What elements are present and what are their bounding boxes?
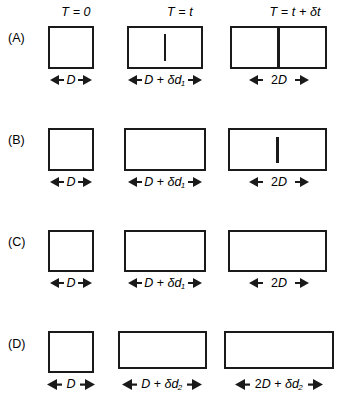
arrow-right-icon (78, 74, 92, 86)
arrow-right-icon (188, 74, 202, 86)
cell-box-d-t (118, 331, 207, 369)
cell-box-c-t0 (48, 230, 94, 272)
dimension-d-t0: D (36, 376, 106, 392)
cell-division-figure: T = 0 T = t T = t + δt (A) D D + δd1 (0, 0, 357, 415)
figure-caption-clipped (4, 403, 355, 415)
column-header-t0-text: T = 0 (61, 5, 90, 19)
arrow-left-icon (249, 277, 263, 289)
row-label-b: (B) (8, 134, 25, 147)
arrow-right-icon (295, 277, 309, 289)
row-label-a-text: (A) (8, 31, 25, 45)
arrow-right-icon (188, 176, 202, 188)
cell-box-d-tdt (224, 331, 334, 369)
cell-box-c-t (124, 230, 206, 272)
dimension-c-tdt-label: 2D (263, 276, 295, 289)
septum-partial-a-t (164, 34, 166, 61)
row-label-c: (C) (8, 236, 25, 249)
row-label-b-text: (B) (8, 133, 25, 147)
row-label-d: (D) (8, 338, 25, 351)
dimension-b-t: D + δd1 (117, 174, 213, 190)
dimension-d-tdt-label: 2D + δd2 (250, 377, 309, 390)
dimension-a-tdt: 2D (228, 72, 330, 88)
arrow-left-icon (50, 277, 64, 289)
arrow-left-icon (128, 74, 142, 86)
arrow-right-icon (78, 277, 92, 289)
arrow-right-icon (188, 277, 202, 289)
dimension-b-t-label: D + δd1 (142, 175, 188, 188)
column-header-t-plus-dt-text: T = t + δt (269, 5, 320, 19)
dimension-d-t-label: D + δd2 (137, 377, 187, 390)
column-header-t-text: T = t (167, 5, 193, 19)
row-label-d-text: (D) (8, 337, 25, 351)
arrow-left-icon (122, 378, 137, 391)
dimension-c-t: D + δd1 (117, 275, 213, 291)
dimension-c-t-label: D + δd1 (142, 276, 188, 289)
cell-box-a-tdt (230, 26, 327, 69)
cell-box-c-tdt (228, 230, 327, 272)
dimension-b-tdt: 2D (228, 174, 330, 190)
septum-partial-b-tdt (276, 137, 278, 163)
arrow-left-icon (235, 378, 250, 391)
arrow-left-icon (249, 74, 263, 86)
cell-box-a-t (127, 26, 203, 69)
dimension-a-tdt-label: 2D (263, 73, 295, 86)
arrow-left-icon (249, 176, 263, 188)
dimension-c-tdt: 2D (228, 275, 330, 291)
septum-full-a-tdt (277, 28, 279, 67)
dimension-b-t0: D (36, 174, 106, 190)
dimension-d-tdt: 2D + δd2 (222, 376, 336, 392)
dimension-b-t0-label: D (64, 175, 77, 188)
cell-box-b-t (124, 128, 206, 171)
cell-box-a-t0 (48, 26, 94, 69)
dimension-a-t0: D (36, 72, 106, 88)
arrow-left-icon (128, 277, 142, 289)
row-label-a: (A) (8, 32, 25, 45)
arrow-right-icon (295, 176, 309, 188)
arrow-right-icon (78, 176, 92, 188)
arrow-right-icon (295, 74, 309, 86)
cell-box-b-tdt (228, 128, 327, 171)
dimension-c-t0-label: D (64, 276, 77, 289)
column-header-t-plus-dt: T = t + δt (240, 6, 350, 19)
arrow-left-icon (47, 378, 62, 391)
row-label-c-text: (C) (8, 235, 25, 249)
column-header-t: T = t (132, 6, 228, 19)
cell-box-b-t0 (48, 128, 94, 171)
arrow-left-icon (50, 74, 64, 86)
arrow-left-icon (50, 176, 64, 188)
dimension-d-t0-label: D (62, 377, 79, 390)
arrow-right-icon (80, 378, 95, 391)
arrow-right-icon (187, 378, 202, 391)
arrow-left-icon (128, 176, 142, 188)
dimension-a-t: D + δd1 (117, 72, 213, 88)
dimension-a-t-label: D + δd1 (142, 73, 188, 86)
dimension-a-t0-label: D (64, 73, 77, 86)
dimension-c-t0: D (36, 275, 106, 291)
cell-box-d-t0 (48, 331, 94, 373)
dimension-d-t: D + δd2 (112, 376, 212, 392)
column-header-t0: T = 0 (48, 6, 104, 19)
arrow-right-icon (308, 378, 323, 391)
dimension-b-tdt-label: 2D (263, 175, 295, 188)
